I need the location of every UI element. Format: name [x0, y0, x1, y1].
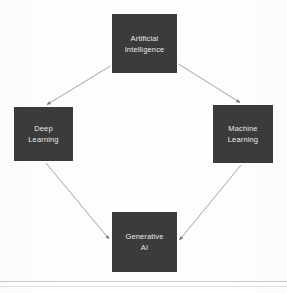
node-label-deep-learning: Deep Learning: [28, 123, 58, 145]
diagram-canvas: Artificial Intelligence Deep Learning Ma…: [0, 0, 287, 293]
page-divider-lower: [0, 286, 287, 287]
edge-ai-to-machine-learning: [179, 64, 241, 103]
node-label-artificial-intelligence: Artificial Intelligence: [125, 33, 165, 55]
node-artificial-intelligence[interactable]: Artificial Intelligence: [112, 14, 177, 73]
node-deep-learning[interactable]: Deep Learning: [14, 107, 73, 161]
node-machine-learning[interactable]: Machine Learning: [213, 105, 273, 163]
node-label-machine-learning: Machine Learning: [228, 123, 258, 145]
edge-machine-learning-to-generative-ai: [180, 165, 242, 240]
edge-deep-learning-to-generative-ai: [46, 163, 109, 239]
node-label-generative-ai: Generative AI: [125, 231, 163, 253]
page-divider-upper: [0, 281, 287, 282]
edge-ai-to-deep-learning: [47, 66, 111, 105]
node-generative-ai[interactable]: Generative AI: [112, 212, 177, 272]
